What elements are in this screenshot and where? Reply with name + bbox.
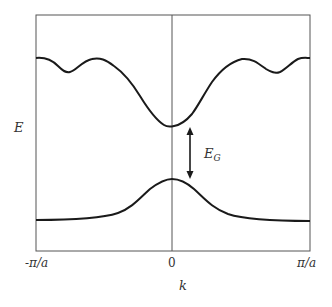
valence-band-curve <box>36 179 310 221</box>
x-tick-right: π/a <box>296 256 316 270</box>
band-gap-arrow <box>187 127 194 179</box>
gap-label: EG <box>203 146 221 163</box>
x-tick-zero: 0 <box>168 256 176 270</box>
y-axis-label: E <box>13 120 24 135</box>
x-axis-label: k <box>179 278 187 293</box>
band-structure-diagram: EG E -π/a 0 π/a k <box>0 0 332 307</box>
plot-frame <box>36 15 310 251</box>
x-tick-left: -π/a <box>25 256 48 270</box>
conduction-band-curve <box>36 58 310 127</box>
